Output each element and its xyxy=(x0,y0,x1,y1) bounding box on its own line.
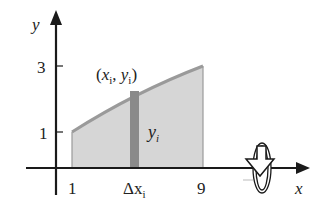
solid-of-revolution-diagram: y x 3 1 1 9 Δxi (xi, yi) yi xyxy=(0,0,328,206)
point-label: (xi, yi) xyxy=(96,65,137,86)
y-axis-label: y xyxy=(30,15,40,34)
y-tick-label-1: 1 xyxy=(39,124,48,143)
x-tick-label-1: 1 xyxy=(68,179,77,198)
x-axis-arrow-icon xyxy=(296,162,310,174)
y-tick-label-3: 3 xyxy=(37,58,46,77)
x-tick-label-9: 9 xyxy=(197,179,206,198)
representative-strip xyxy=(130,91,139,168)
x-axis-label: x xyxy=(294,179,303,198)
delta-x-label: Δxi xyxy=(123,179,146,200)
y-axis-arrow-icon xyxy=(50,10,62,25)
